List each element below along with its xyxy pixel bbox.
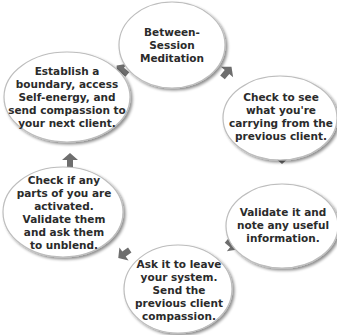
node-label-boundary: Establish a boundary, access Self-energy… (5, 58, 129, 136)
arrow-check-parts-to-boundary (62, 153, 78, 167)
node-label-validate: Validate it and note any useful informat… (228, 190, 337, 260)
node-label-ask-leave: Ask it to leave your system. Send the pr… (126, 252, 232, 328)
node-label-check-carrying: Check to see what you're carrying from t… (226, 80, 336, 154)
node-label-check-parts: Check if any parts of you are activated.… (5, 170, 123, 256)
node-label-meditation: Between- Session Meditation (122, 8, 222, 82)
